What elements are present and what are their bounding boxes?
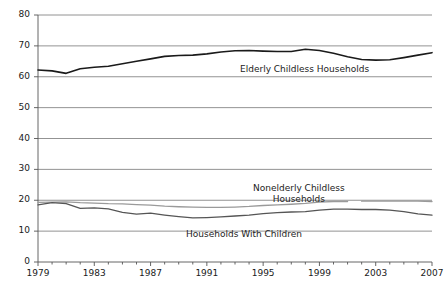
series-annotation-label: Households With Children: [186, 229, 302, 240]
x-axis-tick-label: 1995: [243, 268, 283, 278]
y-axis-tick-label: 30: [4, 163, 30, 173]
x-axis-tick-label: 1999: [299, 268, 339, 278]
y-axis-tick-label: 40: [4, 133, 30, 143]
y-axis-tick-label: 20: [4, 194, 30, 204]
series-annotation-label: Elderly Childless Households: [240, 64, 369, 75]
x-axis-tick-label: 1987: [131, 268, 171, 278]
series-line-2: [38, 203, 432, 218]
y-axis-tick-label: 10: [4, 225, 30, 235]
y-axis-tick-label: 60: [4, 71, 30, 81]
series-annotation-label: Nonelderly ChildlessHouseholds: [253, 183, 345, 205]
x-axis-tick-label: 1983: [74, 268, 114, 278]
x-axis-tick-label: 1991: [187, 268, 227, 278]
series-line-0: [38, 49, 432, 73]
x-axis-tick-label: 1979: [18, 268, 58, 278]
series-annotation-line2: Households: [253, 194, 345, 205]
y-axis-tick-label: 80: [4, 9, 30, 19]
x-axis-tick-label: 2003: [356, 268, 396, 278]
line-chart-plot: [0, 0, 446, 296]
x-axis-tick-label: 2007: [412, 268, 446, 278]
y-axis-tick-label: 50: [4, 102, 30, 112]
y-axis-tick-label: 0: [4, 256, 30, 266]
series-annotation-line1: Nonelderly Childless: [253, 183, 345, 194]
y-axis-tick-label: 70: [4, 40, 30, 50]
chart-container: 0102030405060708019791983198719911995199…: [0, 0, 446, 296]
